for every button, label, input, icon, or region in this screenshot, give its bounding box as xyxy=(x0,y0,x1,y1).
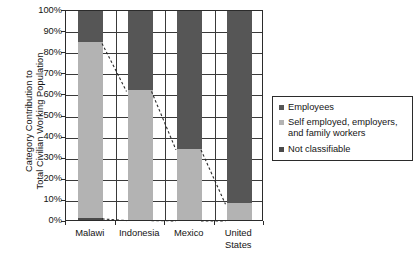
legend-label: Not classifiable xyxy=(288,144,351,155)
x-tick-mark xyxy=(115,221,116,225)
bar-segment-employees xyxy=(227,11,252,203)
legend-item-self-employed[interactable]: Self employed, employers, and family wor… xyxy=(279,117,407,139)
y-tick-label: 10% xyxy=(26,195,62,204)
y-tick-label: 20% xyxy=(26,174,62,183)
y-tick-label: 90% xyxy=(26,27,62,36)
x-label-line: United xyxy=(207,227,269,239)
y-tick-label: 100% xyxy=(26,6,62,15)
legend-label: Employees xyxy=(288,102,334,113)
legend-item-employees[interactable]: Employees xyxy=(279,102,407,113)
bar-segment-self-employed xyxy=(128,90,153,220)
bar-segment-not-classifiable xyxy=(78,218,103,220)
bar-segment-employees xyxy=(128,11,153,90)
bar-segment-employees xyxy=(78,11,103,42)
legend-label-line-2: and family workers xyxy=(288,128,366,138)
bar-segment-self-employed xyxy=(177,149,202,220)
y-tick-label: 50% xyxy=(26,111,62,120)
y-tick-label: 70% xyxy=(26,69,62,78)
x-label-line: States xyxy=(207,239,269,251)
category-separator xyxy=(165,11,166,220)
bar-indonesia xyxy=(128,11,153,220)
x-tick-mark xyxy=(164,221,165,225)
legend-swatch-icon xyxy=(279,120,284,125)
legend-swatch-icon xyxy=(279,147,284,152)
y-tick-label: 60% xyxy=(26,90,62,99)
x-tick-mark xyxy=(263,221,264,225)
x-tick-mark xyxy=(65,221,66,225)
y-tick-label: 80% xyxy=(26,48,62,57)
y-axis-tick-labels: 100% 90% 80% 70% 60% 50% 40% 30% 20% 10%… xyxy=(22,0,62,268)
bar-mexico xyxy=(177,11,202,220)
y-tick-label: 40% xyxy=(26,132,62,141)
y-tick-label: 30% xyxy=(26,153,62,162)
x-tick-mark xyxy=(214,221,215,225)
category-separator xyxy=(215,11,216,220)
bar-segment-self-employed xyxy=(78,42,103,218)
bar-united-states xyxy=(227,11,252,220)
x-label-united-states: United States xyxy=(207,227,269,250)
bar-segment-self-employed xyxy=(227,203,252,220)
bar-segment-employees xyxy=(177,11,202,149)
plot-area xyxy=(65,10,263,221)
legend-label-line-1: Self employed, employers, xyxy=(288,117,398,127)
chart-legend: Employees Self employed, employers, and … xyxy=(272,96,413,161)
legend-swatch-icon xyxy=(279,105,284,110)
y-tick-label: 0% xyxy=(26,216,62,225)
bar-malawi xyxy=(78,11,103,220)
category-separator xyxy=(116,11,117,220)
chart-figure: Category Contribution to Total Civilian … xyxy=(0,0,420,268)
legend-item-not-classifiable[interactable]: Not classifiable xyxy=(279,144,407,155)
legend-label: Self employed, employers, and family wor… xyxy=(288,117,398,139)
